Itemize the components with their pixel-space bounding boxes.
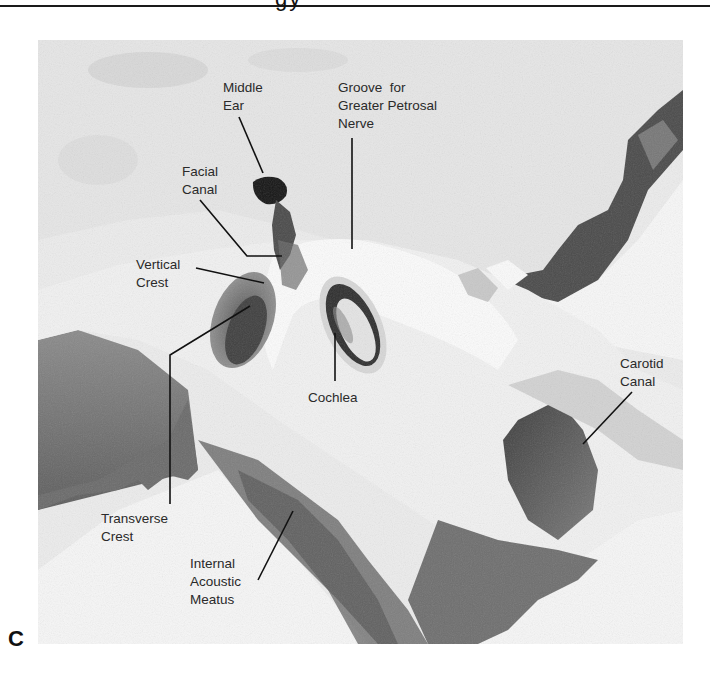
label-cochlea: Cochlea xyxy=(308,389,358,407)
panel-label: C xyxy=(8,626,24,652)
label-vertical-crest: Vertical Crest xyxy=(136,256,180,292)
label-groove-greater-petrosal-nerve: Groove for Greater Petrosal Nerve xyxy=(338,79,437,133)
label-transverse-crest: Transverse Crest xyxy=(101,510,168,546)
label-middle-ear: Middle Ear xyxy=(223,79,263,115)
label-carotid-canal: Carotid Canal xyxy=(620,355,664,391)
page-title-fragment: gy xyxy=(275,0,302,12)
header-rule xyxy=(0,5,710,7)
label-facial-canal: Facial Canal xyxy=(182,163,218,199)
label-internal-acoustic-meatus: Internal Acoustic Meatus xyxy=(190,555,241,609)
